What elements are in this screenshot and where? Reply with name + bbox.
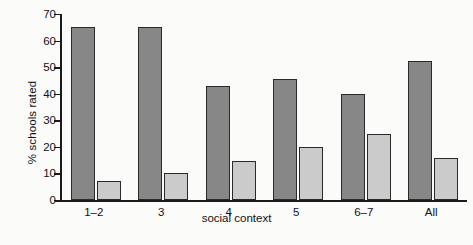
y-axis-tick-label: 50: [43, 61, 56, 73]
bar-group: [71, 14, 121, 200]
bar: [206, 86, 230, 200]
bar-group: [138, 14, 188, 200]
bar: [97, 181, 121, 200]
bar: [434, 158, 458, 201]
bar-group: [408, 14, 458, 200]
plot-area: 010203040506070 1–23456–7All: [60, 14, 465, 200]
y-axis-tick-label: 70: [43, 8, 56, 20]
bar-group: [206, 14, 256, 200]
bar: [71, 27, 95, 200]
y-axis-tick-label: 30: [43, 114, 56, 126]
y-axis-tick-label: 40: [43, 88, 56, 100]
bar: [273, 79, 297, 200]
y-axis-tick-label: 20: [43, 141, 56, 153]
bar-chart: % schools rated 010203040506070 1–23456–…: [0, 0, 473, 245]
x-axis-title: social context: [0, 212, 473, 224]
y-axis-tick-label: 0: [50, 194, 56, 206]
bar: [138, 27, 162, 200]
bar: [367, 134, 391, 200]
y-axis-tick-label: 10: [43, 167, 56, 179]
x-axis-line: [55, 200, 467, 202]
bar-group: [341, 14, 391, 200]
bar-group: [273, 14, 323, 200]
bar: [408, 61, 432, 201]
y-axis-line: [60, 14, 62, 200]
bar: [164, 173, 188, 200]
bar: [299, 147, 323, 200]
y-axis-title: % schools rated: [22, 0, 42, 245]
bar: [341, 94, 365, 200]
y-axis-tick-label: 60: [43, 35, 56, 47]
bar: [232, 161, 256, 200]
